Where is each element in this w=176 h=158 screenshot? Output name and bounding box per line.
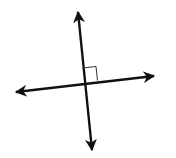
perpendicular-lines-diagram [0,0,176,158]
vertical-line [78,12,92,150]
diagram-canvas: Perpendicular lines [0,0,176,158]
